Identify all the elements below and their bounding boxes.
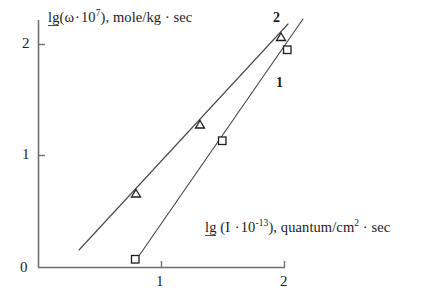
- data-point-marker: [284, 46, 292, 54]
- x-axis-title-exponent: -13: [255, 218, 268, 228]
- series-2-fit-line: [79, 24, 288, 250]
- x-axis-title-dot: ·: [234, 219, 241, 235]
- y-axis-title: lg(ω·107), mole/kg · sec: [48, 10, 192, 25]
- data-point-marker: [277, 33, 286, 41]
- x-tick-label-1: 1: [156, 274, 164, 289]
- data-point-marker: [132, 256, 140, 264]
- x-axis-title: lg (I ·10-13), quantum/cm2 · sec: [205, 220, 390, 235]
- x-axis-title-open: (I: [216, 219, 233, 235]
- y-axis-title-dot: ·: [74, 9, 81, 25]
- y-axis-ticks: [39, 45, 46, 156]
- y-tick-label-2: 2: [22, 36, 30, 51]
- x-axis-title-lg: lg: [205, 219, 216, 236]
- chart-figure: 2 1 0 1 2 lg(ω·107), mole/kg · sec lg (I…: [0, 0, 425, 305]
- data-point-marker: [196, 121, 205, 129]
- y-tick-label-1: 1: [22, 147, 30, 162]
- curve-label-lower: 1: [276, 76, 283, 90]
- x-tick-label-2: 2: [280, 274, 288, 289]
- x-axis-title-units-tail: · sec: [359, 219, 390, 235]
- x-axis-title-units: , quantum/cm: [273, 219, 354, 235]
- series-2-triangles: [79, 24, 288, 250]
- x-axis-title-ten: 10: [241, 219, 256, 235]
- y-axis-title-omega: ω: [64, 9, 74, 25]
- y-axis-title-lg: lg: [48, 9, 59, 26]
- x-axis-ticks: [162, 261, 285, 268]
- data-point-marker: [219, 137, 227, 145]
- y-tick-label-0: 0: [20, 260, 28, 275]
- data-point-marker: [132, 190, 141, 198]
- y-axis-title-ten: 10: [81, 9, 96, 25]
- plot-area: [0, 0, 425, 305]
- curve-label-upper: 2: [273, 11, 280, 25]
- y-axis-title-units: , mole/kg · sec: [106, 9, 193, 25]
